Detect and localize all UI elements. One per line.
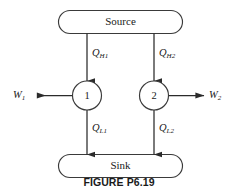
heat-in-1-subscript: H1 — [100, 52, 109, 60]
thermodynamics-figure: Source Sink 1 2 QH1 QH2 QL1 QL2 W1 W2 FI… — [0, 0, 238, 193]
work-out-1-label: W1 — [13, 89, 25, 100]
heat-out-1-symbol: Q — [92, 122, 100, 133]
heat-in-2-symbol: Q — [159, 47, 167, 58]
engine-2-label: 2 — [144, 90, 164, 101]
work-out-1-symbol: W — [13, 89, 22, 100]
work-out-2-symbol: W — [209, 89, 218, 100]
heat-in-2-subscript: H2 — [167, 52, 176, 60]
heat-out-1-subscript: L1 — [100, 127, 107, 135]
heat-in-1-symbol: Q — [92, 47, 100, 58]
work-out-2-label: W2 — [209, 89, 221, 100]
heat-in-1-label: QH1 — [92, 47, 108, 58]
heat-out-2-subscript: L2 — [167, 127, 174, 135]
heat-out-2-symbol: Q — [159, 122, 167, 133]
source-reservoir-label: Source — [58, 15, 183, 27]
heat-out-1-label: QL1 — [92, 122, 107, 133]
heat-in-2-label: QH2 — [159, 47, 175, 58]
work-out-1-subscript: 1 — [22, 94, 26, 102]
figure-caption: FIGURE P6.19 — [0, 176, 238, 188]
heat-out-2-label: QL2 — [159, 122, 174, 133]
engine-1-label: 1 — [77, 90, 97, 101]
sink-reservoir-label: Sink — [58, 159, 183, 171]
work-out-2-subscript: 2 — [218, 94, 222, 102]
